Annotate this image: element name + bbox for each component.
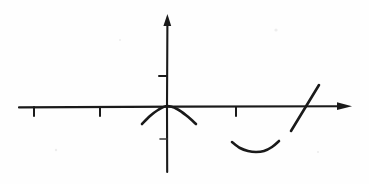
diagonal-line-segment <box>291 85 319 131</box>
curve-arc-below-axis <box>232 141 279 152</box>
upward-arc-path <box>232 141 279 152</box>
y-axis-group <box>163 14 171 172</box>
paper-speck <box>317 151 319 153</box>
paper-specks <box>55 28 319 153</box>
paper-speck <box>274 28 277 31</box>
diagonal-line-segment-group <box>291 85 319 131</box>
paper-speck <box>55 149 57 151</box>
coordinate-graph-figure: Hand-drawn Cartesian coordinate graph A … <box>0 0 369 184</box>
downward-arc-path <box>142 106 196 124</box>
graph-canvas <box>0 0 369 184</box>
y-axis-arrowhead-icon <box>163 14 171 26</box>
paper-speck <box>119 39 121 41</box>
x-axis-group <box>19 102 352 110</box>
x-axis-line <box>19 106 344 107</box>
curve-arc-at-origin <box>142 106 196 124</box>
x-axis-arrowhead-icon <box>337 102 352 110</box>
